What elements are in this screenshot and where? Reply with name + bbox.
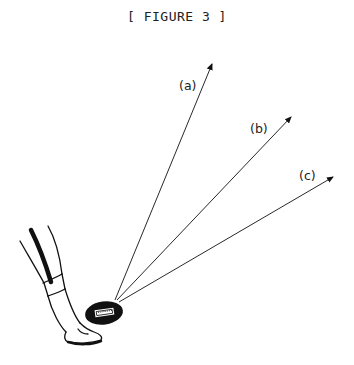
arrow-c xyxy=(119,177,333,302)
trajectory-arrows xyxy=(115,64,333,302)
label-c: (c) xyxy=(299,168,316,183)
label-a: (a) xyxy=(179,78,196,93)
kick-trajectory-diagram: (a) (b) (c) xyxy=(0,0,354,365)
arrow-b xyxy=(117,117,291,300)
arrow-a xyxy=(115,64,212,300)
label-b: (b) xyxy=(250,121,268,136)
football-illustration xyxy=(84,299,125,327)
kicker-leg-illustration xyxy=(20,226,102,344)
